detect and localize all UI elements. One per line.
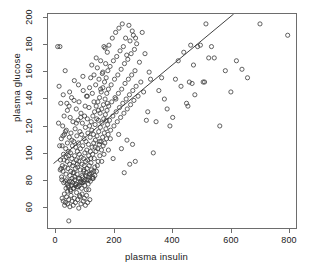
data-point — [75, 134, 79, 138]
data-point — [105, 91, 109, 95]
data-point — [81, 74, 85, 78]
data-point — [126, 77, 130, 81]
data-point — [204, 22, 208, 26]
data-point — [98, 154, 102, 158]
data-point — [85, 117, 89, 121]
data-point — [162, 97, 166, 101]
data-point — [111, 156, 115, 160]
x-tick-mark — [172, 229, 173, 233]
data-point — [132, 98, 136, 102]
data-point — [74, 190, 78, 194]
data-point — [59, 101, 63, 105]
y-tick-label: 140 — [24, 85, 34, 111]
data-point — [112, 124, 116, 128]
data-point — [83, 203, 87, 207]
data-point — [64, 128, 68, 132]
data-point — [105, 122, 109, 126]
data-point — [121, 45, 125, 49]
data-point — [88, 198, 92, 202]
data-point — [112, 77, 116, 81]
data-point — [240, 67, 244, 71]
data-point — [154, 120, 158, 124]
data-point — [179, 84, 183, 88]
plot-area — [47, 13, 297, 229]
data-point — [109, 83, 113, 87]
data-point — [168, 124, 172, 128]
data-point — [80, 121, 84, 125]
data-point — [143, 52, 147, 56]
data-point — [121, 101, 125, 105]
x-tick-mark — [289, 229, 290, 233]
x-tick-mark — [55, 229, 56, 233]
data-point — [127, 93, 131, 97]
data-point — [147, 70, 151, 74]
data-point — [146, 110, 150, 114]
data-point — [106, 148, 110, 152]
data-point — [122, 62, 126, 66]
data-point — [151, 151, 155, 155]
data-point — [133, 159, 137, 163]
data-point — [132, 47, 136, 51]
data-point — [128, 39, 132, 43]
data-point — [98, 125, 102, 129]
data-point — [102, 80, 106, 84]
data-point — [182, 50, 186, 54]
data-point — [103, 113, 107, 117]
y-tick-label: 100 — [24, 140, 34, 166]
data-point — [131, 33, 135, 37]
data-point — [87, 188, 91, 192]
data-point — [104, 62, 108, 66]
scatter-canvas — [48, 14, 296, 228]
data-point — [209, 45, 213, 49]
data-point — [120, 22, 124, 26]
data-point — [76, 83, 80, 87]
data-point — [218, 124, 222, 128]
data-point — [106, 87, 110, 91]
data-point — [99, 148, 103, 152]
data-point — [258, 22, 262, 26]
data-point — [95, 66, 99, 70]
x-tick-mark — [114, 229, 115, 233]
data-point — [90, 63, 94, 67]
x-tick-label: 200 — [94, 235, 134, 245]
data-point — [122, 171, 126, 175]
x-tick-label: 600 — [211, 235, 251, 245]
data-point — [173, 77, 177, 81]
data-point — [125, 107, 129, 111]
data-point — [86, 142, 90, 146]
data-point — [78, 147, 82, 151]
data-point — [119, 67, 123, 71]
data-point — [63, 69, 67, 73]
y-tick-label: 200 — [24, 4, 34, 30]
data-point — [107, 43, 111, 47]
data-point — [87, 86, 91, 90]
data-point — [86, 200, 90, 204]
data-point — [104, 76, 108, 80]
data-point — [68, 90, 72, 94]
data-point — [223, 69, 227, 73]
data-point — [65, 141, 69, 145]
data-point — [56, 121, 60, 125]
data-point — [92, 73, 96, 77]
data-point — [111, 59, 115, 63]
y-tick-label: 160 — [24, 58, 34, 84]
data-point — [109, 128, 113, 132]
data-point — [97, 77, 101, 81]
data-point-group — [56, 22, 290, 223]
regression-line — [54, 14, 234, 164]
data-point — [74, 107, 78, 111]
data-point — [73, 127, 77, 131]
data-point — [114, 30, 118, 34]
data-point — [125, 53, 129, 57]
data-point — [67, 104, 71, 108]
data-point — [94, 56, 98, 60]
data-point — [124, 36, 128, 40]
data-point — [95, 134, 99, 138]
data-point — [83, 125, 87, 129]
data-point — [134, 84, 138, 88]
data-point — [137, 60, 141, 64]
data-point — [119, 147, 123, 151]
data-point — [286, 33, 290, 37]
data-point — [87, 124, 91, 128]
data-point — [106, 132, 110, 136]
